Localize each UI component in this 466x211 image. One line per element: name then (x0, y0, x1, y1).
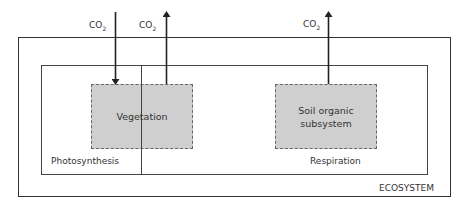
co2-out-vegetation-label: CO2 (139, 20, 156, 32)
co2-in-label: CO2 (89, 20, 106, 32)
co2-out-soil-label: CO2 (303, 19, 320, 31)
flow-arrows (0, 0, 466, 211)
ecosystem-label: ECOSYSTEM (379, 183, 434, 193)
respiration-label: Respiration (310, 156, 361, 166)
photosynthesis-label: Photosynthesis (51, 156, 119, 166)
vegetation-label: Vegetation (116, 110, 167, 123)
